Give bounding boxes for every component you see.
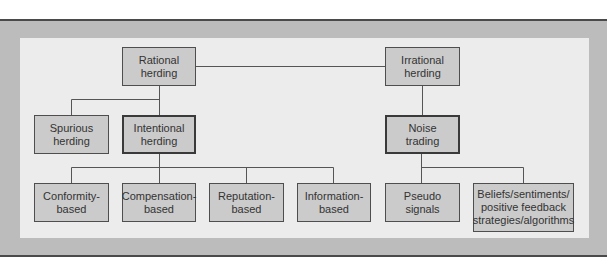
node-label: based: [43, 203, 100, 216]
node-compensation-based: Compensation-based: [122, 183, 196, 222]
node-label: Irrational: [401, 54, 444, 67]
node-label: based: [122, 203, 197, 216]
node-label: positive feedback: [473, 201, 575, 214]
node-intentional-herding: Intentionalherding: [122, 115, 196, 154]
node-label: signals: [404, 203, 441, 216]
node-reputation-based: Reputation-based: [209, 183, 284, 222]
node-information-based: Information-based: [297, 183, 371, 222]
node-label: Pseudo: [404, 190, 441, 203]
node-rational-herding: Rationalherding: [122, 47, 196, 86]
node-pseudo-signals: Pseudosignals: [385, 183, 460, 222]
node-label: herding: [139, 67, 179, 80]
edge-rational-spurious: [72, 100, 160, 116]
node-label: Conformity-: [43, 190, 100, 203]
node-label: Reputation-: [218, 190, 275, 203]
node-label: herding: [50, 135, 93, 148]
node-noise-trading: Noisetrading: [385, 115, 460, 154]
node-label: Compensation-: [122, 190, 197, 203]
node-label: Noise: [406, 122, 440, 135]
node-label: Information-: [305, 190, 364, 203]
edge-noise-beliefs: [422, 168, 524, 184]
node-label: herding: [134, 135, 185, 148]
node-label: herding: [401, 67, 444, 80]
node-label: based: [218, 203, 275, 216]
node-label: strategies/algorithms: [473, 214, 575, 227]
node-spurious-herding: Spuriousherding: [34, 115, 109, 154]
node-label: Beliefs/sentiments/: [473, 188, 575, 201]
node-label: Spurious: [50, 122, 93, 135]
node-label: Rational: [139, 54, 179, 67]
node-label: based: [305, 203, 364, 216]
node-irrational-herding: Irrationalherding: [385, 47, 460, 86]
node-beliefs-sentiments: Beliefs/sentiments/positive feedbackstra…: [473, 183, 574, 232]
node-label: Intentional: [134, 122, 185, 135]
node-conformity-based: Conformity-based: [34, 183, 109, 222]
node-label: trading: [406, 135, 440, 148]
